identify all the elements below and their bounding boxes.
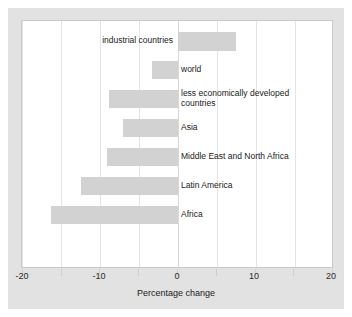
gridline--10	[100, 21, 101, 267]
bar-africa	[51, 206, 178, 224]
bar-world	[152, 61, 178, 79]
xtick-label-20: 20	[311, 271, 351, 281]
bar-label-less-economically-developed-countries: less economically developed countries	[181, 88, 331, 108]
tickmark--5	[138, 269, 139, 276]
bar-latin-america	[81, 177, 178, 195]
xtick-label--10: -10	[79, 271, 119, 281]
bar-less-economically-developed-countries	[109, 90, 178, 108]
xtick-label--20: -20	[2, 271, 42, 281]
bar-label-latin-america: Latin America	[181, 180, 331, 190]
gridline-15	[295, 21, 296, 267]
tickmark-15	[293, 269, 294, 276]
bar-label-world: world	[181, 64, 331, 74]
bar-middle-east-and-north-africa	[107, 148, 178, 166]
x-axis-title: Percentage change	[0, 288, 352, 298]
gridline-zero	[178, 21, 179, 267]
bar-label-middle-east-and-north-africa: Middle East and North Africa	[181, 151, 331, 161]
xtick-label-0: 0	[157, 271, 197, 281]
plot-area	[21, 20, 333, 268]
bar-label-industrial-countries: industrial countries	[30, 35, 173, 45]
bar-label-asia: Asia	[181, 122, 331, 132]
chart-figure: industrial countries world less economic…	[0, 0, 352, 317]
gridline--15	[61, 21, 62, 267]
gridline-10	[256, 21, 257, 267]
bar-asia	[123, 119, 178, 137]
tickmark--15	[61, 269, 62, 276]
tickmark-5	[216, 269, 217, 276]
bar-industrial-countries	[178, 32, 236, 51]
gridline--5	[139, 21, 140, 267]
gridline--20	[22, 21, 23, 267]
bar-label-africa: Africa	[181, 209, 331, 219]
gridline-5	[217, 21, 218, 267]
xtick-label-10: 10	[234, 271, 274, 281]
